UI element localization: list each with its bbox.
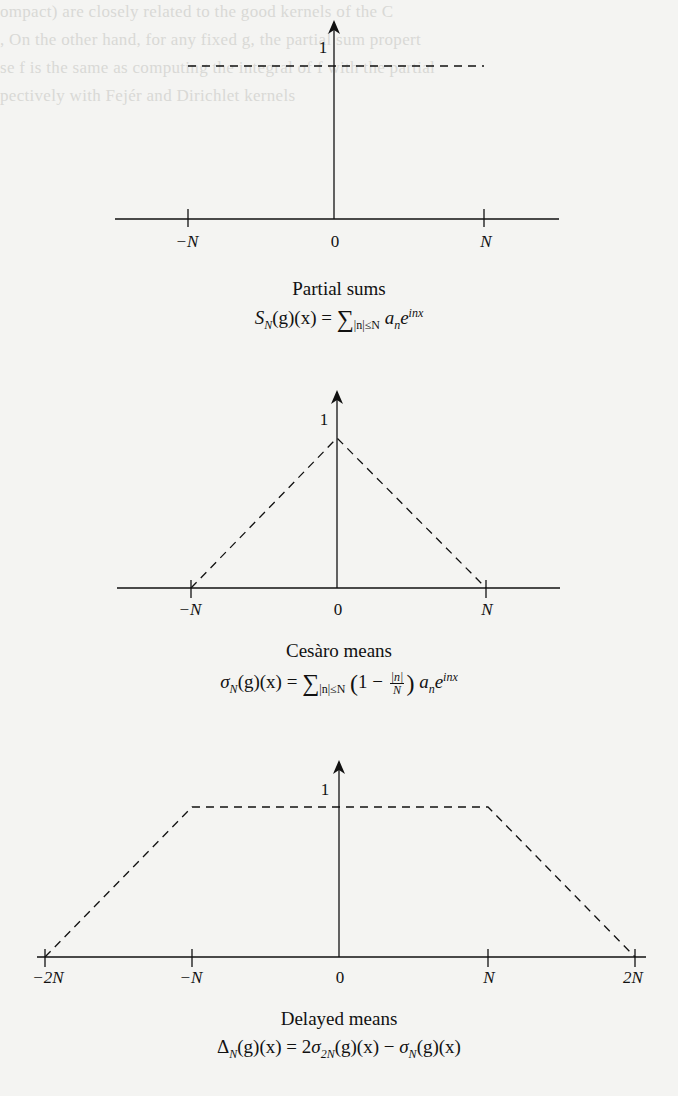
figure-delayed-means bbox=[37, 760, 646, 967]
tick-label-minus-n: −N bbox=[176, 232, 199, 252]
figure-cesaro-means bbox=[117, 390, 560, 598]
triangle-kernel bbox=[191, 438, 486, 588]
formula-delayed-means: ΔN(g)(x) = 2σ2N(g)(x) − σN(g)(x) bbox=[0, 1036, 678, 1062]
tick-label-n: N bbox=[483, 968, 494, 988]
y-label-one: 1 bbox=[320, 410, 329, 430]
y-label-one: 1 bbox=[319, 38, 328, 58]
tick-label-minus-n: −N bbox=[180, 968, 203, 988]
tick-label-zero: 0 bbox=[331, 232, 340, 252]
caption-delayed-means: Delayed means bbox=[0, 1008, 678, 1030]
formula-cesaro-means: σN(g)(x) = ∑|n|≤N (1 − |n|N) aneinx bbox=[0, 670, 678, 697]
tick-label-n: N bbox=[480, 232, 491, 252]
y-label-one: 1 bbox=[321, 780, 330, 800]
caption-partial-sums: Partial sums bbox=[0, 278, 678, 300]
tick-label-2n: 2N bbox=[623, 968, 643, 988]
tick-label-zero: 0 bbox=[336, 968, 345, 988]
tick-label-zero: 0 bbox=[334, 600, 343, 620]
diagrams-canvas bbox=[0, 0, 678, 1096]
tick-label-n: N bbox=[481, 600, 492, 620]
caption-cesaro-means: Cesàro means bbox=[0, 640, 678, 662]
tick-label-minus-n: −N bbox=[179, 600, 202, 620]
tick-label-minus-2n: −2N bbox=[32, 968, 63, 988]
figure-partial-sums bbox=[115, 20, 559, 227]
formula-partial-sums: SN(g)(x) = ∑|n|≤N aneinx bbox=[0, 306, 678, 333]
trapezoid-kernel bbox=[45, 807, 635, 957]
